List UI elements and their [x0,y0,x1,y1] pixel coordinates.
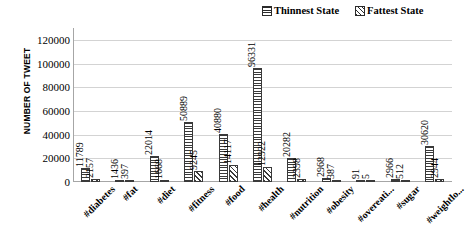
x-axis-tick-label: #sugar [383,184,417,194]
x-axis-tick-label-text: #fat [121,184,140,203]
bar: 14117 [229,165,238,182]
legend-item-thinnest-state: Thinnest State [262,6,339,17]
bar: 9245 [194,171,203,182]
bar-value-label: 397 [120,164,130,179]
diagonal-hatch-swatch-icon [355,6,365,16]
x-axis-tick-labels: #diabetes#fat#diet#fitness#food#health#n… [73,184,452,248]
x-axis-tick-label: #health [245,184,279,194]
bar-group: 2968387 [314,28,348,182]
bar-group: 117892157 [73,28,107,182]
y-axis-tick-label: 0 [18,177,70,188]
bar: 397 [125,180,134,182]
x-axis-tick-label: #diabetes [73,184,107,194]
bar-group: 9633112922 [245,28,279,182]
bar-value-label: 9245 [189,150,199,170]
bar-value-label: 50889 [179,96,189,121]
bar-value-label: 2398 [292,158,302,178]
bar: 387 [332,180,341,182]
bar-group: 915 [349,28,383,182]
bar-value-label: 14117 [223,140,233,165]
bar: 1668 [160,180,169,182]
bar-value-label: 20282 [282,132,292,157]
x-axis-tick-label: #weightlo... [418,184,452,194]
bar-group: 202822398 [280,28,314,182]
bar: 2966 [391,179,400,183]
bar-group: 1436397 [107,28,141,182]
bar-value-label: 1668 [154,159,164,179]
plot-area: 1178921571436397220141668508899245408801… [73,28,452,182]
bar-groups: 1178921571436397220141668508899245408801… [73,28,452,182]
bar-value-label: 12922 [257,141,267,166]
y-axis-tick-label: 100000 [18,58,70,69]
y-axis-tick-label: 40000 [18,129,70,140]
x-axis-tick-label: #diet [142,184,176,194]
bar: 2157 [91,179,100,182]
y-axis-tick-label: 20000 [18,153,70,164]
y-axis-tick-label: 60000 [18,105,70,116]
bar: 1436 [115,180,124,182]
bar-value-label: 5 [361,174,371,179]
bar-group: 2966512 [383,28,417,182]
bar-value-label: 2944 [430,158,440,178]
bar-group: 306202944 [418,28,452,182]
bar-value-label: 40880 [213,108,223,133]
bar: 2968 [322,178,331,182]
bar-group: 508899245 [176,28,210,182]
x-axis-tick-label-text: #weightlo... [425,184,466,225]
y-axis-tick-labels: 020000400006000080000100000120000 [18,0,70,182]
chart-legend: Thinnest State Fattest State [262,6,423,17]
x-axis-tick-label: #obesity [314,184,348,194]
bar: 91 [356,180,365,182]
x-axis-tick-label: #nutrition [280,184,314,194]
bar-group: 220141668 [142,28,176,182]
legend-label-fattest-state: Fattest State [367,6,423,17]
legend-label-thinnest-state: Thinnest State [274,6,339,17]
bar: 12922 [263,167,272,182]
x-axis-tick-label: #fitness [176,184,210,194]
bar-value-label: 2157 [85,158,95,178]
bar-value-label: 96331 [247,42,257,67]
x-axis-tick-label-text: #diet [155,184,177,206]
x-axis-tick-label: #fat [107,184,141,194]
y-axis-tick-label: 80000 [18,82,70,93]
x-axis-tick-label: #food [211,184,245,194]
bar: 512 [401,180,410,182]
y-axis-tick-label: 120000 [18,34,70,45]
bar: 2398 [297,179,306,182]
bar-group: 4088014117 [211,28,245,182]
bar-value-label: 22014 [144,130,154,155]
x-axis-tick-label-text: #food [223,184,247,208]
bar-value-label: 387 [326,164,336,179]
bar-value-label: 30620 [420,120,430,145]
bar-value-label: 512 [395,164,405,179]
horizontal-lines-swatch-icon [262,6,272,16]
x-axis-tick-label: #overeati... [349,184,383,194]
legend-item-fattest-state: Fattest State [355,6,423,17]
bar: 2944 [435,179,444,182]
bar: 5 [366,180,375,182]
